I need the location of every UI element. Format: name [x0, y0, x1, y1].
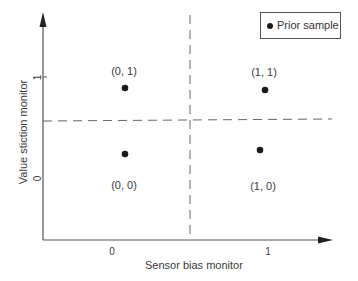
- y-tick-label-0: 0: [32, 176, 43, 182]
- x-axis-label: Sensor bias monitor: [145, 259, 243, 271]
- y-tick-label-1: 1: [32, 75, 43, 81]
- x-axis-arrow-icon: [318, 237, 333, 244]
- y-axis-arrow-icon: [40, 12, 47, 27]
- x-tick-label-0: 0: [109, 246, 115, 257]
- point-label-0-1: (0, 1): [111, 65, 137, 77]
- point-label-1-1: (1, 1): [251, 66, 277, 78]
- point-0-1-marker: [122, 85, 129, 92]
- legend: Prior sample: [260, 12, 341, 39]
- legend-marker-icon: [267, 23, 273, 29]
- point-label-0-0: (0, 0): [111, 179, 137, 191]
- point-label-1-0: (1, 0): [250, 180, 276, 192]
- quadrant-diagram: (0, 1) (1, 1) (0, 0) (1, 0) 0 1 1 0 Sens…: [0, 0, 358, 281]
- point-1-0-marker: [257, 147, 264, 154]
- x-tick-label-1: 1: [265, 246, 271, 257]
- y-axis-label: Value stiction monitor: [17, 80, 29, 184]
- plot-canvas: [0, 0, 358, 281]
- point-1-1-marker: [262, 87, 269, 94]
- horizontal-boundary-dashed-line: [43, 119, 332, 121]
- point-0-0-marker: [122, 151, 129, 158]
- legend-label: Prior sample: [277, 19, 339, 32]
